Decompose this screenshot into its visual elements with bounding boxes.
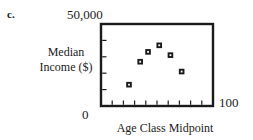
data-point	[126, 82, 132, 88]
data-point-marker-center	[139, 61, 141, 63]
data-point-marker-center	[158, 44, 160, 46]
data-point-marker-center	[147, 51, 149, 53]
y-axis-ticks	[102, 40, 106, 89]
data-point-marker-center	[181, 71, 183, 73]
data-point-marker-center	[170, 54, 172, 56]
data-point	[145, 49, 151, 55]
scatter-plot-figure: c. 50,000 Median Income ($) 0 100 Age Cl…	[0, 0, 253, 140]
plot-frame	[101, 24, 213, 106]
x-axis-ticks	[112, 101, 202, 105]
plot-canvas	[0, 0, 253, 140]
data-point	[137, 59, 143, 65]
data-point	[179, 69, 185, 75]
data-point-marker-center	[128, 84, 130, 86]
data-point	[156, 43, 162, 49]
data-point	[168, 52, 174, 58]
plot-frame-rect	[101, 24, 213, 106]
data-point-group	[126, 43, 184, 88]
